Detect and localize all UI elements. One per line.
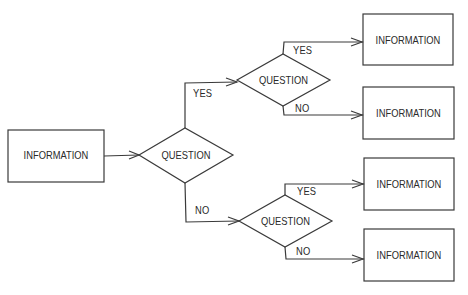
edge-upper-no-label: NO bbox=[295, 103, 309, 114]
edge-main-yes-label: YES bbox=[193, 88, 212, 99]
edge-lower-no-label: NO bbox=[296, 246, 310, 257]
upper-question-label: QUESTION bbox=[244, 75, 323, 86]
out1-label: INFORMATION bbox=[370, 35, 447, 46]
edge-main-no bbox=[185, 183, 239, 222]
main-question-label: QUESTION bbox=[146, 150, 226, 161]
edge-start-to-main bbox=[104, 155, 139, 156]
edge-upper-yes-label: YES bbox=[293, 45, 312, 56]
edge-lower-yes-label: YES bbox=[297, 186, 316, 197]
out2-label: INFORMATION bbox=[370, 108, 447, 119]
start-node-label: INFORMATION bbox=[15, 150, 97, 161]
lower-question-label: QUESTION bbox=[246, 216, 325, 227]
out3-label: INFORMATION bbox=[371, 179, 448, 190]
out4-label: INFORMATION bbox=[371, 250, 448, 261]
edge-main-no-label: NO bbox=[195, 205, 209, 216]
